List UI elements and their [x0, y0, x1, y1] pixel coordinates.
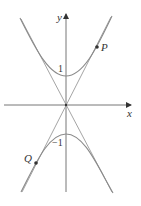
- x-axis-label: x: [126, 107, 132, 119]
- point-p-label: P: [100, 41, 108, 53]
- hyperbola-diagram: y x 1 −1 P Q: [0, 0, 141, 206]
- point-p: [95, 45, 99, 49]
- origin-dot: [65, 104, 67, 106]
- lower-vertex-label: −1: [52, 137, 63, 148]
- y-axis-label: y: [56, 11, 62, 23]
- point-q-label: Q: [24, 152, 32, 164]
- point-q: [34, 161, 38, 165]
- upper-vertex-label: 1: [58, 63, 63, 74]
